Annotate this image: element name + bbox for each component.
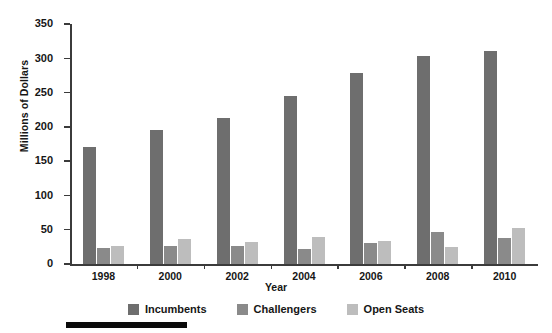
bar: [312, 237, 325, 264]
legend-item: Open Seats: [347, 303, 425, 315]
y-tick-label: 0: [47, 257, 53, 269]
y-tick: 250: [64, 92, 70, 94]
legend-item: Challengers: [237, 303, 317, 315]
legend-label: Challengers: [254, 303, 317, 315]
legend-swatch: [237, 304, 248, 315]
x-axis-title: Year: [0, 281, 552, 293]
bar: [417, 56, 430, 264]
bar: [284, 96, 297, 264]
y-tick: 0: [64, 263, 70, 265]
x-tick: [137, 264, 139, 269]
x-tick: [404, 264, 406, 269]
bar-group: [83, 24, 124, 264]
bar: [217, 118, 230, 264]
bar: [512, 228, 525, 264]
bar: [431, 232, 444, 264]
plot-area: 050100150200250300350 199820002002200420…: [70, 24, 542, 264]
y-axis-title: Millions of Dollars: [18, 26, 30, 186]
bar-chart: Millions of Dollars 05010015020025030035…: [0, 0, 552, 333]
bar-group: [484, 24, 525, 264]
y-tick-label: 150: [35, 154, 53, 166]
y-tick: 100: [64, 195, 70, 197]
legend-item: Incumbents: [128, 303, 207, 315]
bar: [111, 246, 124, 265]
bar: [445, 247, 458, 264]
y-tick: 150: [64, 160, 70, 162]
bar-group: [217, 24, 258, 264]
y-tick-label: 100: [35, 189, 53, 201]
bar: [298, 249, 311, 264]
bar: [178, 239, 191, 264]
bar: [364, 243, 377, 264]
x-tick: [337, 264, 339, 269]
bar-group: [150, 24, 191, 264]
bottom-rule: [66, 322, 187, 328]
y-tick-label: 350: [35, 17, 53, 29]
y-tick-label: 200: [35, 120, 53, 132]
bar: [83, 147, 96, 264]
x-tick: [271, 264, 273, 269]
y-tick-label: 250: [35, 86, 53, 98]
bar: [97, 248, 110, 264]
y-tick: 350: [64, 23, 70, 25]
y-tick: 300: [64, 58, 70, 60]
bar: [164, 246, 177, 265]
bar: [245, 242, 258, 264]
y-tick-label: 50: [41, 223, 53, 235]
bar-group: [417, 24, 458, 264]
x-tick: [471, 264, 473, 269]
y-tick: 50: [64, 229, 70, 231]
bar-group: [350, 24, 391, 264]
bar-group: [284, 24, 325, 264]
bar: [231, 246, 244, 265]
legend-label: Incumbents: [145, 303, 207, 315]
y-tick: 200: [64, 126, 70, 128]
y-axis-line: [70, 24, 72, 265]
bar: [150, 130, 163, 264]
x-tick: [204, 264, 206, 269]
bar: [350, 73, 363, 264]
legend-swatch: [347, 304, 358, 315]
legend-label: Open Seats: [364, 303, 425, 315]
legend-swatch: [128, 304, 139, 315]
bar: [498, 238, 511, 264]
y-tick-label: 300: [35, 52, 53, 64]
bar: [484, 51, 497, 264]
chart-legend: IncumbentsChallengersOpen Seats: [0, 303, 552, 315]
x-axis-line: [70, 264, 538, 266]
bar: [378, 241, 391, 264]
